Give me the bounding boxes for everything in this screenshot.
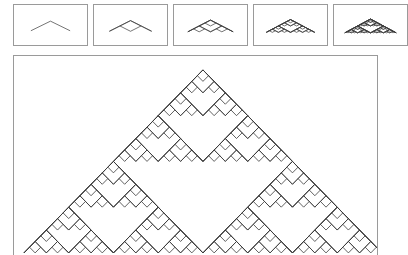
fractal-canvas-panel[interactable]: [13, 55, 378, 255]
thumbnail-fractal-3: [254, 5, 327, 45]
thumbnail-fractal-4: [334, 5, 407, 45]
thumbnail-fractal-2: [174, 5, 247, 45]
thumbnail-iteration-2[interactable]: [173, 4, 248, 46]
thumbnail-iteration-4[interactable]: [333, 4, 408, 46]
thumbnail-iteration-1[interactable]: [93, 4, 168, 46]
sierpinski-arrowhead-chevron-fractal: [24, 70, 377, 253]
thumbnail-fractal-1: [94, 5, 167, 45]
fractal-stroke-path: [24, 70, 377, 253]
thumbnail-iteration-3[interactable]: [253, 4, 328, 46]
iteration-preview-strip: [13, 4, 396, 46]
thumbnail-iteration-0[interactable]: [13, 4, 88, 46]
thumbnail-fractal-0: [14, 5, 87, 45]
fractal-canvas[interactable]: [14, 56, 377, 255]
